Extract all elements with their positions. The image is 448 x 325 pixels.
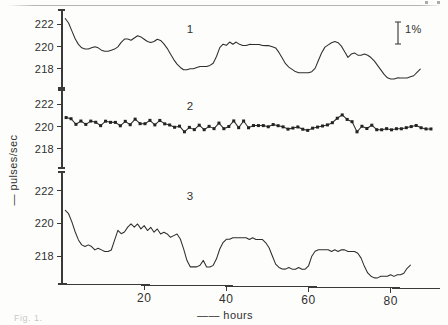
figure-root: Fig. 1. 21822022221822022221822022220406… — [0, 0, 448, 325]
trace-marker-2 — [356, 130, 359, 133]
trace-marker-2 — [134, 118, 137, 121]
trace-marker-2 — [326, 123, 329, 126]
x-tick-label-20: 20 — [137, 291, 152, 305]
trace-marker-2 — [237, 126, 240, 129]
x-axis-title: —— hours — [197, 309, 253, 321]
scalebar-mark — [395, 22, 401, 44]
trace-marker-2 — [232, 119, 235, 122]
trace-marker-2 — [217, 122, 220, 125]
trace-marker-2 — [370, 124, 373, 127]
trace-marker-2 — [222, 127, 225, 130]
trace-marker-2 — [74, 123, 77, 126]
y-tick-label-220-panel-2: 220 — [35, 121, 54, 133]
trace-marker-2 — [94, 121, 97, 124]
trace-marker-2 — [252, 124, 255, 127]
trace-marker-2 — [400, 127, 403, 130]
trace-marker-2 — [341, 113, 344, 116]
trace-marker-2 — [84, 123, 87, 126]
trace-marker-2 — [168, 123, 171, 126]
trace-marker-2 — [139, 122, 142, 125]
trace-marker-2 — [163, 122, 166, 125]
x-tick-label-40: 40 — [219, 292, 234, 306]
plot-canvas: 21822022221822022221822022220406080—— ho… — [0, 0, 448, 325]
panel-label-1: 1 — [187, 23, 193, 35]
trace-marker-2 — [286, 128, 289, 131]
y-tick-label-220-panel-3: 220 — [35, 217, 54, 229]
trace-marker-2 — [277, 124, 280, 127]
trace-marker-2 — [213, 127, 216, 130]
panel-label-2: 2 — [187, 100, 193, 112]
trace-marker-2 — [79, 120, 82, 123]
trace-marker-2 — [365, 127, 368, 130]
trace-marker-2 — [119, 124, 122, 127]
trace-marker-2 — [282, 125, 285, 128]
trace-marker-2 — [144, 122, 147, 125]
trace-marker-2 — [173, 126, 176, 129]
trace-marker-2 — [351, 120, 354, 123]
trace-marker-2 — [247, 126, 250, 129]
trace-marker-2 — [114, 121, 117, 124]
trace-marker-2 — [311, 127, 314, 130]
trace-marker-2 — [331, 121, 334, 124]
trace-marker-2 — [272, 123, 275, 126]
trace-marker-2 — [375, 128, 378, 131]
trace-marker-2 — [291, 127, 294, 130]
trace-marker-2 — [188, 126, 191, 129]
trace-marker-2 — [198, 124, 201, 127]
trace-marker-2 — [306, 129, 309, 132]
y-tick-label-220-panel-1: 220 — [35, 41, 54, 53]
trace-marker-2 — [415, 124, 418, 127]
trace-marker-2 — [395, 127, 398, 130]
y-tick-label-218-panel-2: 218 — [35, 143, 54, 155]
trace-marker-2 — [148, 119, 151, 122]
trace-marker-2 — [129, 123, 132, 126]
trace-marker-2 — [158, 119, 161, 122]
trace-marker-2 — [124, 120, 127, 123]
x-tick-label-80: 80 — [383, 294, 398, 308]
trace-marker-2 — [242, 119, 245, 122]
y-tick-label-222-panel-1: 222 — [35, 18, 54, 30]
trace-marker-2 — [346, 118, 349, 121]
trace-marker-2 — [109, 121, 112, 124]
trace-marker-2 — [257, 124, 260, 127]
scalebar-label: 1% — [405, 23, 422, 35]
trace-marker-2 — [183, 130, 186, 133]
trace-marker-2 — [405, 126, 408, 129]
trace-marker-2 — [70, 117, 73, 120]
trace-marker-2 — [193, 128, 196, 131]
trace-marker-2 — [301, 128, 304, 131]
y-tick-label-222-panel-2: 222 — [35, 98, 54, 110]
panel-label-3: 3 — [187, 190, 193, 202]
trace-marker-2 — [429, 127, 432, 130]
trace-marker-2 — [208, 125, 211, 128]
trace-marker-2 — [336, 117, 339, 120]
trace-marker-2 — [385, 127, 388, 130]
trace-marker-2 — [153, 123, 156, 126]
trace-marker-2 — [65, 116, 68, 119]
y-tick-label-218-panel-1: 218 — [35, 63, 54, 75]
trace-marker-2 — [425, 127, 428, 130]
trace-line-1 — [65, 19, 420, 79]
trace-marker-2 — [380, 128, 383, 131]
y-tick-label-222-panel-3: 222 — [35, 185, 54, 197]
trace-marker-2 — [99, 124, 102, 127]
x-axis-spine — [62, 284, 440, 289]
trace-marker-2 — [390, 128, 393, 131]
trace-marker-2 — [296, 125, 299, 128]
trace-marker-2 — [267, 125, 270, 128]
x-tick-label-60: 60 — [301, 293, 316, 307]
trace-marker-2 — [178, 125, 181, 128]
trace-marker-2 — [262, 124, 265, 127]
y-tick-label-218-panel-3: 218 — [35, 250, 54, 262]
trace-marker-2 — [203, 128, 206, 131]
y-axis-title: — pulses/sec — [7, 134, 19, 205]
trace-line-3 — [65, 210, 410, 278]
trace-marker-2 — [89, 120, 92, 123]
trace-marker-2 — [360, 125, 363, 128]
trace-marker-2 — [316, 126, 319, 129]
trace-marker-2 — [321, 124, 324, 127]
trace-marker-2 — [227, 125, 230, 128]
trace-marker-2 — [410, 125, 413, 128]
trace-marker-2 — [420, 126, 423, 129]
trace-marker-2 — [104, 120, 107, 123]
